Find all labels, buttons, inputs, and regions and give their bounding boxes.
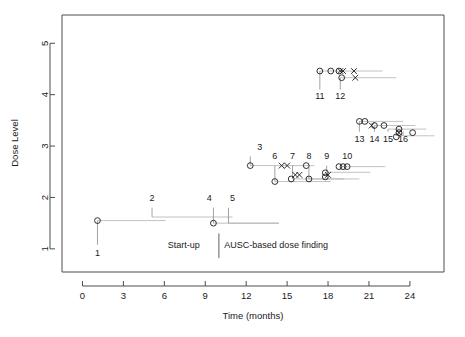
cohort-4: 4 <box>207 193 279 226</box>
cohort-12-label: 12 <box>335 91 345 101</box>
x-axis: 03691215182124 <box>80 281 415 301</box>
cohort-16-label: 16 <box>398 134 408 144</box>
cohort-3: 3 <box>247 142 314 169</box>
x-tick-label-24: 24 <box>405 290 416 301</box>
cohort-16: 16 <box>393 130 434 144</box>
cohort-2: 2 <box>150 193 233 217</box>
y-tick-label-2: 2 <box>40 195 51 200</box>
cohort-12: 12 <box>335 68 396 101</box>
cohort-series: 12345678910111213141516 <box>95 68 435 258</box>
cohort-11: 11 <box>315 68 382 101</box>
y-axis: 12345 <box>40 41 56 252</box>
cohort-16-point-3-circle <box>410 130 416 136</box>
cohort-9-label: 9 <box>324 151 329 161</box>
cohort-11-label: 11 <box>315 91 324 101</box>
cohort-7-label: 7 <box>290 151 295 161</box>
x-tick-label-21: 21 <box>364 290 375 301</box>
x-tick-label-12: 12 <box>241 290 252 301</box>
y-tick-label-1: 1 <box>40 246 51 251</box>
y-tick-label-4: 4 <box>40 92 51 97</box>
cohort-5-label: 5 <box>230 193 235 203</box>
y-tick-label-3: 3 <box>40 143 51 148</box>
x-tick-label-3: 3 <box>121 290 126 301</box>
y-axis-title: Dose Level <box>9 119 20 167</box>
x-tick-label-15: 15 <box>282 290 293 301</box>
cohort-15-label: 15 <box>383 134 393 144</box>
phase-ausc-label: AUSC-based dose finding <box>224 240 328 250</box>
x-tick-label-18: 18 <box>323 290 334 301</box>
cohort-1: 1 <box>95 218 166 258</box>
cohort-8-label: 8 <box>306 151 311 161</box>
cohort-7-point-2-cross <box>296 172 302 178</box>
phase-annotations: Start-upAUSC-based dose finding <box>168 233 328 258</box>
y-tick-label-5: 5 <box>40 41 51 46</box>
x-axis-title: Time (months) <box>223 310 284 321</box>
dose-escalation-scatter-plot: 03691215182124 12345 Start-upAUSC-based … <box>0 0 465 337</box>
cohort-10-label: 10 <box>342 151 352 161</box>
cohort-6: 6 <box>272 151 331 184</box>
x-tick-label-6: 6 <box>162 290 167 301</box>
x-tick-label-9: 9 <box>203 290 208 301</box>
cohort-13-label: 13 <box>354 134 364 144</box>
cohort-3-label: 3 <box>257 142 262 152</box>
chart-container: 03691215182124 12345 Start-upAUSC-based … <box>0 0 465 337</box>
cohort-5: 5 <box>228 193 278 223</box>
cohort-6-label: 6 <box>272 151 277 161</box>
x-tick-label-0: 0 <box>80 290 85 301</box>
cohort-2-label: 2 <box>150 193 155 203</box>
phase-startup-label: Start-up <box>168 240 200 250</box>
cohort-10: 10 <box>336 151 385 169</box>
cohort-1-label: 1 <box>95 248 100 258</box>
cohort-4-label: 4 <box>207 193 212 203</box>
cohort-14-label: 14 <box>369 134 379 144</box>
